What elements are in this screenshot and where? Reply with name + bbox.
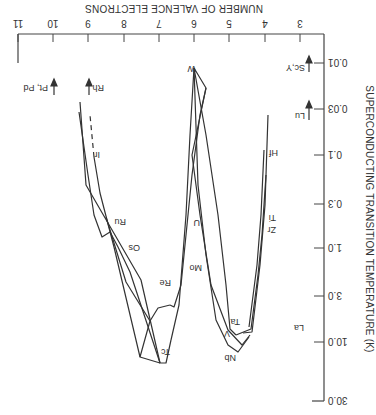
curve-nb [194,68,249,352]
plot-frame [18,34,324,401]
y-tick-0.03: 0.03 [328,103,348,114]
label-u: U [194,218,201,228]
element-labels: La Lu Sc,Y Hf Ti Zr Ta V Nb U Mo W Tc Re… [23,63,305,363]
x-tick-7: 7 [156,18,162,29]
label-ir: Ir [94,150,100,160]
x-axis-title: NUMBER OF VALENCE ELECTRONS [85,3,263,14]
curve-lu [243,115,268,333]
x-tick-10: 10 [47,18,59,29]
curve-w [171,68,194,340]
label-mo: Mo [189,263,202,273]
label-os: Os [128,243,140,253]
curve-rh-tail [90,115,94,157]
curve-tc-re [80,102,171,363]
x-tick-8: 8 [121,18,127,29]
label-rh: Rh [92,83,104,93]
arrow-ptpd-head [51,79,57,86]
label-zr: Zr [268,225,277,235]
y-tick-0.3: 0.3 [328,198,342,209]
x-tick-9: 9 [85,18,91,29]
x-tick-labels: 3 4 5 6 7 8 9 10 11 [12,18,302,29]
y-tick-30.0: 30.0 [328,395,348,406]
label-v: V [224,329,230,339]
label-hf: Hf [269,148,278,158]
curve-rh-dashed [94,157,140,357]
chart-svg: 3 4 5 6 7 8 9 10 11 NUMBER OF VALENCE EL… [0,0,376,415]
label-nb: Nb [224,353,236,363]
y-tick-1.0: 1.0 [328,242,342,253]
curve-os [79,112,160,363]
label-lu: Lu [295,111,305,121]
label-ru: Ru [114,217,126,227]
y-tick-10.0: 10.0 [328,336,348,347]
y-tick-0.1: 0.1 [328,149,342,160]
label-ta: Ta [230,317,240,327]
curve-mo-u [170,88,206,307]
x-ticks [18,34,300,42]
label-la: La [294,323,304,333]
label-re: Re [159,278,171,288]
y-tick-3.0: 3.0 [328,290,342,301]
x-tick-4: 4 [262,18,268,29]
x-tick-5: 5 [226,18,232,29]
label-ti: Ti [269,213,276,223]
label-tc: Tc [161,347,171,357]
y-ticks [314,63,324,342]
label-pt-pd: Pt, Pd [23,83,48,93]
arrow-rh-head [86,79,92,86]
y-tick-0.01: 0.01 [328,57,348,68]
x-tick-11: 11 [12,18,23,29]
y-tick-labels: 0.01 0.03 0.1 0.3 1.0 3.0 10.0 30.0 [328,57,348,406]
arrow-scy-head [306,56,312,63]
chart: 3 4 5 6 7 8 9 10 11 NUMBER OF VALENCE EL… [0,0,376,415]
label-sc-y: Sc,Y [286,63,305,73]
x-tick-3: 3 [297,18,303,29]
y-axis-title: SUPERCONDUCTING TRANSITION TEMPERATURE (… [364,85,375,352]
x-tick-6: 6 [191,18,197,29]
arrow-lu-head [306,101,312,108]
arrows [51,56,312,120]
label-w: W [187,64,196,74]
